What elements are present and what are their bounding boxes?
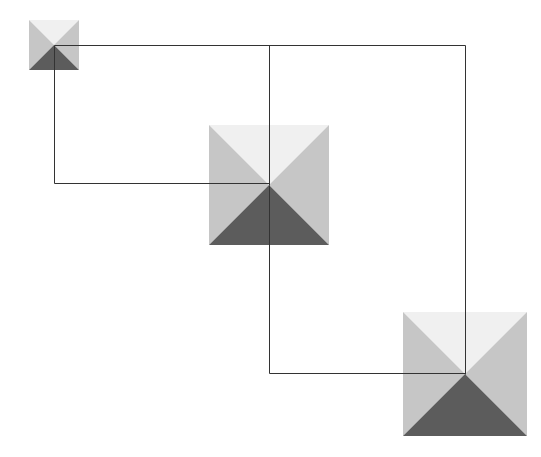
pyramid-node-diagram <box>0 0 541 457</box>
diagram-canvas <box>0 0 541 457</box>
